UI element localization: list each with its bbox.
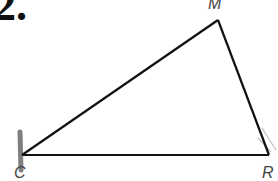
side-cm [22,20,218,155]
side-mr [218,20,269,155]
vertex-label-r: R [262,164,274,181]
vertex-label-c: C [14,164,26,181]
vertex-label-m: M [208,0,222,12]
triangle-diagram: M C R [0,0,278,181]
